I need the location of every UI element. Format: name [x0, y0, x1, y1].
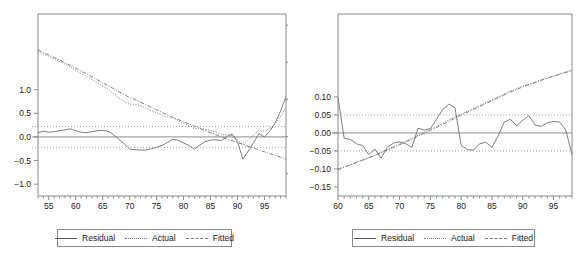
legend-left: Residual Actual Fitted: [57, 229, 232, 247]
svg-text:−0.5: −0.5: [14, 156, 31, 166]
legend-item-fitted: Fitted: [186, 233, 234, 243]
svg-text:1.0: 1.0: [19, 85, 31, 95]
svg-text:−0.05: −0.05: [309, 146, 331, 156]
svg-text:0.5: 0.5: [19, 108, 31, 118]
svg-text:80: 80: [456, 201, 466, 211]
svg-text:70: 70: [395, 201, 405, 211]
series-fitted-line: [38, 50, 286, 159]
svg-text:65: 65: [364, 201, 374, 211]
legend-label-fitted: Fitted: [213, 233, 234, 243]
legend-line-residual-icon: [354, 235, 376, 242]
svg-text:85: 85: [487, 201, 497, 211]
svg-text:65: 65: [98, 201, 108, 211]
legend-line-fitted-icon: [485, 235, 507, 242]
svg-text:60: 60: [333, 201, 343, 211]
svg-text:−0.10: −0.10: [309, 164, 331, 174]
legend-line-fitted-icon: [186, 235, 208, 242]
svg-text:75: 75: [426, 201, 436, 211]
legend-line-residual-icon: [55, 235, 77, 242]
legend-label-actual: Actual: [152, 233, 176, 243]
series-residual-line: [38, 97, 286, 159]
chart-panel-left: 5560657075808590951.00.50.0−0.5−1.010−1−…: [0, 0, 288, 261]
legend-label-residual: Residual: [82, 233, 115, 243]
legend-item-fitted: Fitted: [485, 233, 533, 243]
svg-text:0.10: 0.10: [314, 92, 331, 102]
svg-text:80: 80: [179, 201, 189, 211]
svg-text:90: 90: [518, 201, 528, 211]
legend-line-actual-icon: [125, 235, 147, 242]
chart-panel-right: 60657075808590950.100.050.00−0.05−0.10−0…: [288, 0, 576, 261]
svg-text:55: 55: [44, 201, 54, 211]
legend-label-actual: Actual: [451, 233, 475, 243]
svg-text:0.00: 0.00: [314, 128, 331, 138]
svg-text:95: 95: [260, 201, 270, 211]
svg-text:95: 95: [549, 201, 559, 211]
legend-item-actual: Actual: [424, 233, 475, 243]
svg-text:−0.15: −0.15: [309, 182, 331, 192]
legend-line-actual-icon: [424, 235, 446, 242]
svg-text:−1.0: −1.0: [14, 179, 31, 189]
series-residual-line: [338, 98, 572, 159]
svg-text:60: 60: [71, 201, 81, 211]
svg-text:90: 90: [233, 201, 243, 211]
svg-text:0.05: 0.05: [314, 110, 331, 120]
series-fitted-line: [338, 71, 572, 170]
legend-right: Residual Actual Fitted: [352, 229, 535, 247]
svg-text:70: 70: [125, 201, 135, 211]
legend-item-residual: Residual: [55, 233, 115, 243]
series-actual-line: [338, 70, 572, 169]
legend-item-actual: Actual: [125, 233, 176, 243]
figure-panels: 5560657075808590951.00.50.0−0.5−1.010−1−…: [0, 0, 576, 261]
legend-label-fitted: Fitted: [512, 233, 533, 243]
svg-text:75: 75: [152, 201, 162, 211]
right-chart-svg: 60657075808590950.100.050.00−0.05−0.10−0…: [288, 0, 576, 215]
left-chart-svg: 5560657075808590951.00.50.0−0.5−1.010−1−…: [0, 0, 288, 215]
svg-text:85: 85: [206, 201, 216, 211]
legend-label-residual: Residual: [381, 233, 414, 243]
svg-text:0.0: 0.0: [19, 132, 31, 142]
legend-item-residual: Residual: [354, 233, 414, 243]
